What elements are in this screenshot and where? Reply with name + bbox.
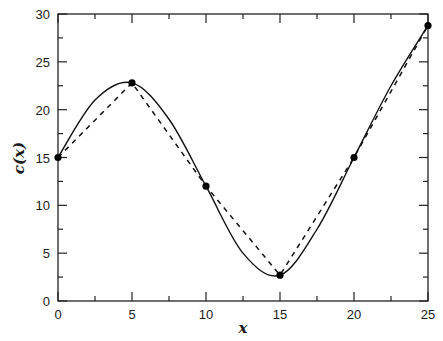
x-tick-label: 5	[128, 307, 135, 322]
y-tick-label: 0	[43, 294, 50, 309]
y-tick-label: 5	[43, 246, 50, 261]
data-point-markers	[54, 22, 431, 279]
data-point-marker	[202, 183, 209, 190]
y-axis-label: c(x)	[10, 142, 28, 174]
x-tick-label: 15	[273, 307, 287, 322]
plot-frame	[58, 14, 428, 301]
y-tick-label: 10	[36, 198, 50, 213]
data-point-marker	[350, 154, 357, 161]
data-point-marker	[276, 272, 283, 279]
y-tick-label: 30	[36, 7, 50, 22]
y-tick-label: 20	[36, 103, 50, 118]
y-tick-label: 25	[36, 55, 50, 70]
chart: 0510152025 051015202530 x c(x)	[0, 0, 443, 341]
x-tick-label: 0	[54, 307, 61, 322]
piecewise-linear-dashed-line	[58, 25, 428, 275]
y-tick-label: 15	[36, 151, 50, 166]
x-tick-label: 20	[347, 307, 361, 322]
axis-ticks	[58, 14, 428, 301]
y-tick-labels: 051015202530	[36, 7, 50, 309]
x-tick-label: 25	[421, 307, 435, 322]
data-point-marker	[128, 79, 135, 86]
data-point-marker	[424, 22, 431, 29]
smooth-curve-line	[58, 25, 428, 276]
plot-border	[58, 14, 428, 301]
data-point-marker	[54, 154, 61, 161]
x-tick-label: 10	[199, 307, 213, 322]
x-axis-label: x	[238, 319, 249, 337]
